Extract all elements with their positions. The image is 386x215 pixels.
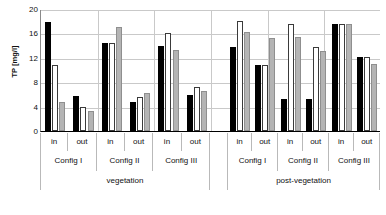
y-tick-16: 16 (16, 30, 38, 38)
bar-group (253, 10, 279, 131)
bar (371, 64, 377, 131)
bar (306, 99, 312, 131)
y-tick-20: 20 (16, 6, 38, 14)
bar (109, 43, 115, 131)
x-label-phase: post-vegetation (227, 171, 380, 190)
bar (116, 27, 122, 131)
bar (262, 65, 268, 131)
bar (59, 102, 65, 131)
phase-block-post-vegetation (227, 10, 380, 131)
bar (88, 111, 94, 131)
bar (201, 91, 207, 131)
x-label-inout: out (252, 133, 278, 151)
x-label-config: Config II (278, 151, 329, 171)
x-label-inout: out (182, 133, 210, 151)
bar-groups (41, 10, 380, 131)
bar-group (126, 10, 154, 131)
x-label-config: Config II (97, 151, 154, 171)
bar (237, 21, 243, 131)
plot-area (40, 10, 380, 132)
x-label-config: Config I (227, 151, 278, 171)
x-axis-tier-config: Config IConfig IIConfig IIIConfig IConfi… (40, 151, 380, 171)
x-label-config: Config III (153, 151, 210, 171)
bar-group (154, 10, 182, 131)
bar-group (98, 10, 126, 131)
bar-chart: TP [mg/l] 20 16 12 8 4 0 inoutinoutinout… (0, 0, 386, 215)
x-label-inout: in (329, 133, 355, 151)
bar (244, 32, 250, 131)
bar (230, 47, 236, 131)
bar (332, 24, 338, 131)
bar (320, 51, 326, 131)
x-axis-tier-inout: inoutinoutinoutinoutinoutinout (40, 133, 380, 151)
bar (137, 97, 143, 131)
bar (288, 24, 294, 131)
bar-group (227, 10, 253, 131)
bar (80, 107, 86, 131)
x-label-inout: in (278, 133, 304, 151)
bar (165, 33, 171, 131)
x-label-inout: in (227, 133, 253, 151)
bar (187, 95, 193, 131)
y-tick-4: 4 (16, 104, 38, 112)
bar-group (69, 10, 97, 131)
y-tick-8: 8 (16, 79, 38, 87)
bar (158, 46, 164, 131)
bar (346, 24, 352, 131)
x-label-inout: in (153, 133, 181, 151)
phase-block-vegetation (41, 10, 211, 131)
bar (255, 65, 261, 131)
bar (339, 24, 345, 131)
x-label-inout: in (97, 133, 125, 151)
bar (73, 96, 79, 131)
y-tick-12: 12 (16, 55, 38, 63)
bar (144, 93, 150, 131)
x-label-phase: vegetation (40, 171, 210, 190)
bar (269, 38, 275, 131)
x-label-inout: in (40, 133, 68, 151)
bar (357, 57, 363, 131)
x-label-spacer (210, 133, 227, 151)
bar-group (304, 10, 330, 131)
bar (173, 50, 179, 131)
x-label-inout: out (303, 133, 329, 151)
bar (102, 43, 108, 131)
x-label-spacer (210, 171, 227, 190)
x-label-config: Config I (40, 151, 97, 171)
bar-group (329, 10, 355, 131)
phase-gap (211, 10, 227, 131)
x-label-spacer (210, 151, 227, 171)
bar-group (41, 10, 69, 131)
bar (52, 65, 58, 131)
bar (194, 87, 200, 131)
bar-group (355, 10, 381, 131)
bar-group (278, 10, 304, 131)
bar (295, 37, 301, 131)
y-axis-tick-labels: 20 16 12 8 4 0 (16, 10, 38, 132)
x-axis-tier-phase: vegetationpost-vegetation (40, 171, 380, 190)
bar (130, 102, 136, 131)
x-axis-labels: inoutinoutinoutinoutinoutinout Config IC… (40, 133, 380, 190)
bar (364, 57, 370, 131)
bar (45, 22, 51, 131)
x-label-inout: out (125, 133, 153, 151)
bar (281, 99, 287, 131)
x-label-config: Config III (329, 151, 380, 171)
bar-group (183, 10, 211, 131)
x-label-inout: out (354, 133, 380, 151)
y-tick-0: 0 (16, 128, 38, 136)
x-label-inout: out (68, 133, 96, 151)
bar (313, 47, 319, 131)
